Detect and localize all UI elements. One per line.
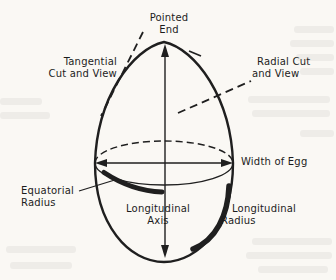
radial-cut-label: Radial Cut and View <box>252 56 310 80</box>
equatorial-radius-label: Equatorial Radius <box>21 185 74 209</box>
radial-cut-line <box>178 81 251 113</box>
tangential-cut-label: Tangential Cut and View <box>36 56 117 80</box>
pointed-end-label: Pointed End <box>137 12 201 36</box>
equatorial-radius-leader <box>79 179 118 191</box>
equator-ellipse-dashed <box>95 141 233 163</box>
width-arrow <box>95 159 233 167</box>
egg-diagram-canvas <box>0 0 336 280</box>
outline-tick <box>189 51 201 56</box>
longitudinal-radius-label: Longitudinal Radius <box>221 203 296 227</box>
egg-geometry-diagram: Pointed End Tangential Cut and View Radi… <box>0 0 336 280</box>
width-of-egg-label: Width of Egg <box>241 156 307 168</box>
longitudinal-axis-label: Longitudinal Axis <box>118 203 198 227</box>
